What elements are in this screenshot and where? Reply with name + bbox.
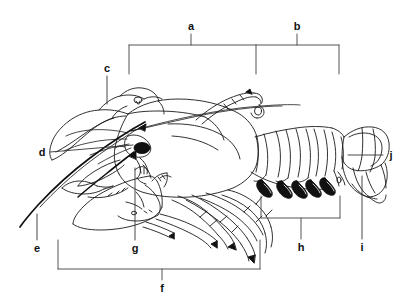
tail-attachment: [334, 171, 345, 186]
lobster-anatomy-figure: a b c d e f g h i j: [0, 0, 411, 302]
label-d: d: [39, 147, 46, 158]
bracket-a: [129, 34, 256, 74]
label-c: c: [104, 63, 110, 74]
label-j: j: [389, 150, 392, 161]
long-antenna: [20, 122, 146, 227]
label-h: h: [298, 242, 305, 253]
label-b: b: [294, 21, 301, 32]
rostrum: [50, 110, 128, 160]
label-e: e: [34, 243, 40, 254]
anatomy-line-drawing: [0, 0, 411, 302]
bracket-b: [256, 34, 339, 74]
carapace-internal-lines: [168, 117, 240, 159]
label-i: i: [360, 242, 363, 253]
bracket-h: [261, 196, 340, 239]
tail-fan: [342, 127, 389, 203]
label-f: f: [160, 283, 164, 294]
label-g: g: [132, 243, 139, 254]
label-a: a: [188, 21, 194, 32]
antennal-scale: [78, 160, 124, 186]
abdomen-segments: [251, 127, 344, 190]
